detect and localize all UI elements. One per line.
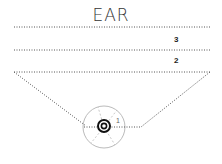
level-3-label: 3 [174,35,178,44]
level-2-label: 2 [174,56,178,65]
level-1-label: 1 [116,117,120,124]
funnel-left-edge [14,72,86,126]
funnel-diagram [0,0,222,164]
funnel-right-edge [141,72,210,127]
target-icon [98,120,110,132]
